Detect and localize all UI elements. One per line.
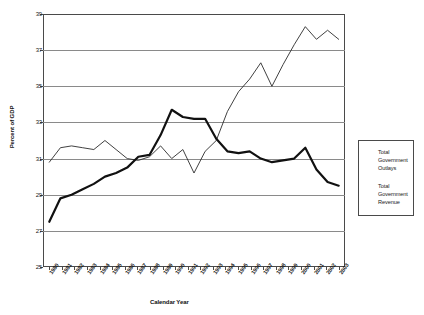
legend-item-revenue: Total Government Revenue [363,183,413,206]
y-axis-label: Percent of GDP [9,82,15,172]
y-tick-label: 29 [18,192,42,198]
legend: Total Government Outlays Total Governmen… [358,140,414,216]
legend-item-outlays: Total Government Outlays [363,149,413,172]
line-total-government-outlays [49,27,338,173]
y-tick-label: 33 [18,119,42,125]
y-tick-label: 27 [18,228,42,234]
y-tick-label: 31 [18,156,42,162]
legend-label-revenue: Total Government Revenue [378,183,413,206]
y-tick-label: 25 [18,264,42,270]
x-axis-label: Calendar Year [150,299,189,305]
y-tick-label: 39 [18,11,42,17]
chart-figure: 2527293133353739 Percent of GDP 19801981… [0,0,424,315]
series-lines [43,14,345,267]
y-tick-label: 35 [18,83,42,89]
legend-label-outlays: Total Government Outlays [378,149,413,172]
y-tick-label: 37 [18,47,42,53]
line-total-government-revenue [49,110,338,222]
